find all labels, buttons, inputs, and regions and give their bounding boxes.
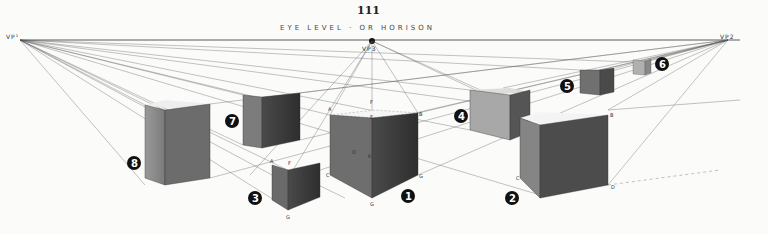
book-page: 111 EYE LEVEL · OR HORISON VP¹ VP3 VP2 — [0, 0, 768, 234]
svg-text:F: F — [370, 99, 373, 105]
svg-text:B: B — [610, 112, 614, 118]
svg-text:8: 8 — [131, 158, 138, 169]
svg-text:D: D — [611, 184, 615, 190]
svg-text:G: G — [370, 201, 374, 207]
svg-text:C: C — [516, 175, 520, 181]
svg-text:7: 7 — [229, 116, 236, 127]
svg-text:C: C — [326, 172, 330, 178]
svg-text:1: 1 — [405, 191, 412, 202]
svg-text:A: A — [270, 158, 274, 164]
svg-text:G: G — [286, 214, 290, 220]
svg-text:4: 4 — [458, 111, 465, 122]
cube-7 — [243, 93, 300, 148]
svg-text:G: G — [419, 173, 423, 179]
svg-text:3: 3 — [252, 193, 259, 204]
cube-1 — [330, 110, 418, 198]
cube-8 — [145, 100, 210, 185]
svg-text:E: E — [370, 114, 373, 120]
svg-text:5: 5 — [564, 81, 571, 92]
svg-text:2: 2 — [509, 193, 516, 204]
perspective-diagram: 1 2 3 4 5 6 7 8 AF EB OK CG G AF G BC D — [0, 0, 768, 234]
cube-2 — [520, 112, 608, 198]
svg-text:B: B — [419, 111, 423, 117]
svg-text:O: O — [352, 149, 356, 155]
cube-5 — [580, 68, 614, 95]
svg-text:6: 6 — [659, 59, 666, 70]
cube-3 — [272, 163, 320, 210]
svg-text:F: F — [288, 160, 291, 166]
svg-text:A: A — [328, 106, 332, 112]
cube-6 — [633, 59, 651, 75]
